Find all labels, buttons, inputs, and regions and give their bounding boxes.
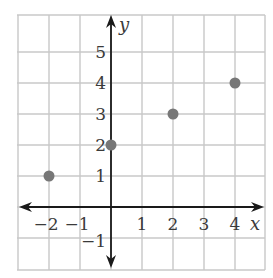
x-tick-label: −2: [33, 214, 58, 234]
data-point: [44, 171, 55, 182]
x-axis-label: x: [250, 213, 260, 234]
coordinate-plane-chart: −2−11234−112345 x y: [0, 0, 273, 278]
y-axis-label: y: [118, 14, 130, 35]
y-tick-label: 4: [95, 73, 106, 93]
data-point: [168, 109, 179, 120]
x-tick-label: 3: [199, 214, 210, 234]
y-tick-label: −1: [81, 231, 106, 251]
data-point: [230, 78, 241, 89]
x-tick-label: 4: [230, 214, 241, 234]
y-tick-label: 5: [95, 42, 106, 62]
y-tick-label: 2: [95, 135, 106, 155]
x-tick-label: 1: [137, 214, 148, 234]
tick-labels: −2−11234−112345: [33, 42, 240, 251]
y-tick-label: 3: [95, 104, 106, 124]
x-tick-label: 2: [168, 214, 179, 234]
data-point: [106, 140, 117, 151]
y-tick-label: 1: [95, 166, 106, 186]
